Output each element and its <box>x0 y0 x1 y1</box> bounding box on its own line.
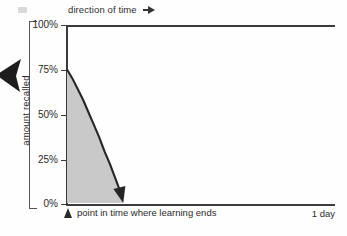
plot-y-axis <box>66 25 68 205</box>
arrow-left-solid-icon <box>0 58 22 94</box>
ytick-label-0: 0% <box>26 198 58 209</box>
plot-bottom-axis <box>66 204 335 206</box>
recall-curve-line <box>67 70 121 193</box>
ytick-label-100: 100% <box>26 19 58 30</box>
triangle-right-icon <box>143 6 155 14</box>
direction-of-time-annotation: direction of time <box>68 4 155 15</box>
learning-ends-label: point in time where learning ends <box>77 207 216 218</box>
ytick-dash-50 <box>61 115 66 116</box>
ytick-label-75: 75% <box>26 64 58 75</box>
ytick-dash-0 <box>61 204 66 205</box>
scan-artifact-icon <box>18 7 27 13</box>
triangle-up-icon <box>64 208 72 218</box>
learning-ends-annotation: point in time where learning ends <box>64 207 216 218</box>
ytick-label-50: 50% <box>26 109 58 120</box>
ytick-dash-75 <box>61 70 66 71</box>
ytick-dash-25 <box>61 160 66 161</box>
ytick-label-25: 25% <box>26 154 58 165</box>
forgetting-curve-figure: direction of time amount recalled 100% 7… <box>0 0 347 236</box>
x-axis-end-label: 1 day <box>312 208 335 219</box>
ytick-dash-100 <box>61 25 66 26</box>
recall-shaded-area <box>67 70 123 204</box>
direction-of-time-label: direction of time <box>68 4 137 15</box>
plot-top-line <box>66 25 335 27</box>
curve-arrowhead-icon <box>113 186 125 203</box>
